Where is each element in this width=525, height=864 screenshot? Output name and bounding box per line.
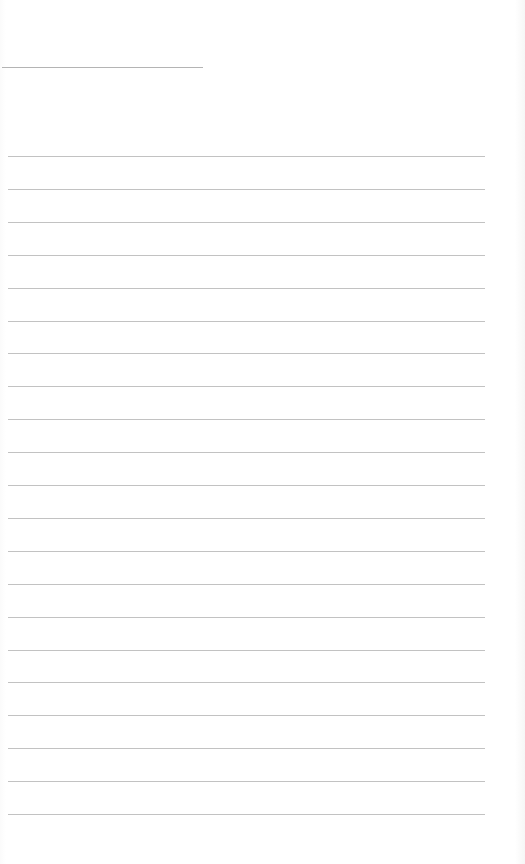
ruled-line (8, 617, 485, 618)
ruled-line (8, 222, 485, 223)
lined-page (0, 0, 525, 864)
ruled-line (8, 518, 485, 519)
ruled-line (8, 255, 485, 256)
ruled-line (8, 353, 485, 354)
ruled-line (8, 748, 485, 749)
ruled-line (8, 584, 485, 585)
ruled-line (8, 650, 485, 651)
ruled-line (8, 288, 485, 289)
title-underline (2, 67, 203, 68)
ruled-line (8, 189, 485, 190)
ruled-line (8, 814, 485, 815)
ruled-line (8, 419, 485, 420)
ruled-line (8, 485, 485, 486)
ruled-line (8, 156, 485, 157)
ruled-line (8, 386, 485, 387)
ruled-line (8, 781, 485, 782)
ruled-line (8, 452, 485, 453)
ruled-line (8, 551, 485, 552)
ruled-line (8, 682, 485, 683)
ruled-line (8, 715, 485, 716)
ruled-line (8, 321, 485, 322)
